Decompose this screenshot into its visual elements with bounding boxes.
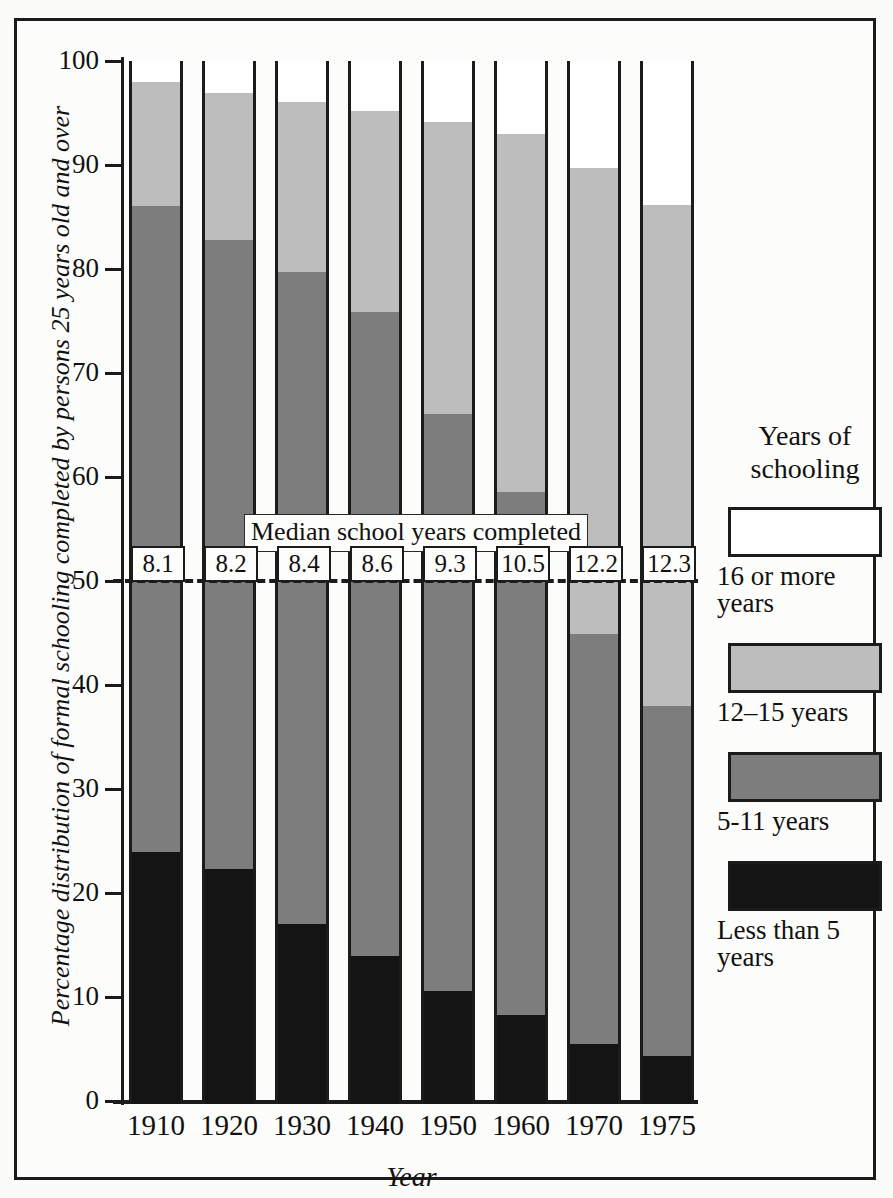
- y-tick-mark: [105, 1100, 122, 1103]
- y-tick-mark: [105, 476, 122, 479]
- legend-label: Less than 5 years: [717, 917, 893, 971]
- median-value-label: 10.5: [496, 546, 550, 582]
- y-tick-label: 70: [23, 359, 99, 386]
- y-tick-mark: [105, 996, 122, 999]
- y-tick-label: 90: [23, 151, 99, 178]
- median-value-label: 12.2: [569, 546, 623, 582]
- legend-title-line-2: schooling: [717, 452, 893, 485]
- x-tick-label-1970: 1970: [552, 1111, 636, 1140]
- segment-16-or-more: [278, 61, 326, 102]
- y-tick-mark: [105, 268, 122, 271]
- y-tick-label: 40: [23, 671, 99, 698]
- y-tick-mark: [105, 60, 122, 63]
- legend-swatch: [728, 861, 882, 911]
- segment-12-15: [643, 202, 691, 705]
- x-tick-label-1960: 1960: [479, 1111, 563, 1140]
- median-value-label: 8.1: [131, 546, 185, 582]
- segment-12-15: [205, 90, 253, 240]
- segment-16-or-more: [132, 61, 180, 82]
- y-tick-label: 50: [23, 567, 99, 594]
- segment-less-than-5: [205, 866, 253, 1104]
- segment-5-11: [351, 309, 399, 957]
- median-value-label: 8.6: [350, 546, 404, 582]
- x-tick-label-1920: 1920: [187, 1111, 271, 1140]
- y-tick-mark: [105, 892, 122, 895]
- legend-items: 16 or more years12–15 years5-11 yearsLes…: [717, 507, 893, 971]
- segment-16-or-more: [424, 61, 472, 122]
- segment-less-than-5: [351, 953, 399, 1104]
- x-tick-label-1950: 1950: [406, 1111, 490, 1140]
- median-value-label: 9.3: [423, 546, 477, 582]
- legend-item[interactable]: Less than 5 years: [717, 861, 893, 971]
- segment-less-than-5: [278, 921, 326, 1104]
- legend-label: 12–15 years: [717, 699, 893, 726]
- segment-5-11: [424, 411, 472, 990]
- median-value-label: 12.3: [642, 546, 696, 582]
- y-tick-label: 10: [23, 983, 99, 1010]
- legend-title-line-1: Years of: [717, 419, 893, 452]
- median-value-label: 8.2: [204, 546, 258, 582]
- segment-less-than-5: [497, 1012, 545, 1104]
- chart-page: Percentage distribution of formal school…: [0, 0, 893, 1198]
- segment-12-15: [132, 79, 180, 207]
- segment-5-11: [643, 703, 691, 1056]
- segment-5-11: [132, 203, 180, 852]
- y-tick-mark: [105, 684, 122, 687]
- x-axis-title: Year: [129, 1161, 694, 1193]
- segment-5-11: [570, 631, 618, 1044]
- legend-swatch: [728, 752, 882, 802]
- y-tick-label: 100: [23, 47, 99, 74]
- segment-less-than-5: [570, 1041, 618, 1104]
- y-tick-mark: [105, 788, 122, 791]
- legend: Years of schooling 16 or more years12–15…: [717, 419, 893, 997]
- y-tick-mark: [105, 164, 122, 167]
- x-tick-label-1930: 1930: [260, 1111, 344, 1140]
- y-tick-label: 0: [23, 1087, 99, 1114]
- legend-item[interactable]: 16 or more years: [717, 507, 893, 617]
- segment-less-than-5: [132, 849, 180, 1104]
- segment-16-or-more: [497, 61, 545, 134]
- y-tick-mark: [105, 372, 122, 375]
- segment-12-15: [278, 99, 326, 272]
- y-tick-label: 80: [23, 255, 99, 282]
- x-tick-label-1940: 1940: [333, 1111, 417, 1140]
- segment-12-15: [351, 108, 399, 312]
- segment-12-15: [424, 119, 472, 414]
- segment-12-15: [497, 131, 545, 493]
- chart-frame: Percentage distribution of formal school…: [14, 18, 876, 1180]
- segment-16-or-more: [570, 61, 618, 168]
- median-value-label: 8.4: [277, 546, 331, 582]
- legend-swatch: [728, 507, 882, 557]
- segment-16-or-more: [205, 61, 253, 93]
- legend-item[interactable]: 5-11 years: [717, 752, 893, 835]
- x-tick-label-1910: 1910: [114, 1111, 198, 1140]
- segment-16-or-more: [351, 61, 399, 111]
- y-tick-label: 20: [23, 879, 99, 906]
- legend-label: 5-11 years: [717, 808, 893, 835]
- legend-title: Years of schooling: [717, 419, 893, 485]
- segment-less-than-5: [424, 988, 472, 1104]
- segment-16-or-more: [643, 61, 691, 205]
- y-tick-label: 60: [23, 463, 99, 490]
- segment-5-11: [278, 269, 326, 924]
- y-tick-label: 30: [23, 775, 99, 802]
- segment-less-than-5: [643, 1053, 691, 1104]
- legend-swatch: [728, 643, 882, 693]
- legend-label: 16 or more years: [717, 563, 893, 617]
- x-tick-label-1975: 1975: [625, 1111, 709, 1140]
- legend-item[interactable]: 12–15 years: [717, 643, 893, 726]
